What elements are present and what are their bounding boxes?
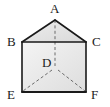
vertex-label-D: D <box>42 56 51 69</box>
vertex-label-E: E <box>7 88 15 101</box>
vertex-label-B: B <box>7 35 16 48</box>
geometry-figure: A B C D E F <box>0 0 110 107</box>
face-roof-triangle <box>22 20 86 42</box>
vertex-label-C: C <box>92 35 101 48</box>
vertex-label-F: F <box>91 88 98 101</box>
vertex-label-A: A <box>50 2 59 15</box>
